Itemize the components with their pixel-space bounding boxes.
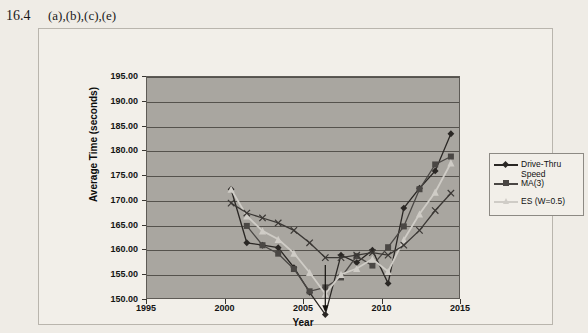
y-axis-tick-label: 190.00 xyxy=(110,96,138,106)
y-axis-tick-label: 165.00 xyxy=(110,220,138,230)
legend-item-drive-thru-speed[interactable]: Drive-Thru Speed xyxy=(494,159,561,179)
y-axis-tick-mark xyxy=(142,225,146,226)
legend-marker-triangle-icon xyxy=(494,197,518,207)
gridline-horizontal xyxy=(147,176,459,177)
plot-area xyxy=(146,76,460,299)
legend-item-ma3[interactable]: MA(3) xyxy=(494,178,544,189)
y-axis-tick-mark xyxy=(142,200,146,201)
x-axis-tick-label: 2000 xyxy=(214,303,234,313)
legend-marker-diamond-icon xyxy=(494,160,518,170)
y-axis-tick-label: 155.00 xyxy=(110,269,138,279)
gridline-horizontal xyxy=(147,127,459,128)
gridline-horizontal xyxy=(147,151,459,152)
x-axis-tick-mark xyxy=(146,299,147,304)
y-axis-tick-label: 175.00 xyxy=(110,170,138,180)
x-axis-tick-label: 1995 xyxy=(136,303,156,313)
y-axis-title: Average Time (seconds) xyxy=(88,55,99,235)
y-axis-tick-label: 150.00 xyxy=(110,294,138,304)
y-axis-tick-label: 170.00 xyxy=(110,195,138,205)
y-axis-tick-label: 195.00 xyxy=(110,71,138,81)
gridline-horizontal xyxy=(147,275,459,276)
chart-frame: Average Time (seconds) Year 150.00155.00… xyxy=(38,28,553,325)
chart-legend: Drive-Thru SpeedMA(3)ES (W=0.5) xyxy=(489,153,584,216)
y-axis-tick-mark xyxy=(142,175,146,176)
y-axis-tick-label: 185.00 xyxy=(110,121,138,131)
x-axis-tick-label: 2010 xyxy=(371,303,391,313)
legend-item-es[interactable]: ES (W=0.5) xyxy=(494,196,565,207)
x-axis-tick-mark xyxy=(460,299,461,304)
gridline-horizontal xyxy=(147,250,459,251)
legend-label: Drive-Thru Speed xyxy=(521,159,561,179)
x-axis-tick-label: 2015 xyxy=(450,303,470,313)
y-axis-tick-label: 180.00 xyxy=(110,145,138,155)
legend-marker-square-icon xyxy=(494,179,518,189)
solution-number: 16.4 xyxy=(6,8,31,24)
y-axis-tick-label: 160.00 xyxy=(110,244,138,254)
x-axis-tick-label: 2005 xyxy=(293,303,313,313)
y-axis-tick-mark xyxy=(142,101,146,102)
gridline-horizontal xyxy=(147,77,459,78)
y-axis-tick-mark xyxy=(142,126,146,127)
gridline-horizontal xyxy=(147,102,459,103)
y-axis-tick-mark xyxy=(142,76,146,77)
gridline-horizontal xyxy=(147,201,459,202)
x-axis-tick-mark xyxy=(382,299,383,304)
x-axis-tick-mark xyxy=(225,299,226,304)
legend-label: MA(3) xyxy=(521,178,544,188)
legend-label: ES (W=0.5) xyxy=(521,196,565,206)
y-axis-tick-mark xyxy=(142,150,146,151)
solution-parts: (a),(b),(c),(e) xyxy=(48,8,116,24)
y-axis-tick-mark xyxy=(142,249,146,250)
gridline-horizontal xyxy=(147,226,459,227)
x-axis-tick-mark xyxy=(303,299,304,304)
x-axis-title: Year xyxy=(146,317,460,328)
y-axis-tick-mark xyxy=(142,274,146,275)
